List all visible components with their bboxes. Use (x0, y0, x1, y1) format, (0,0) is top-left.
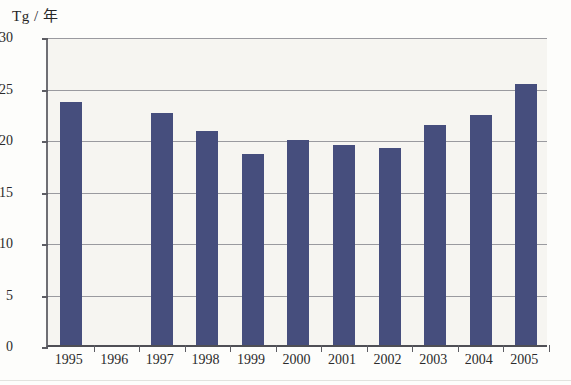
x-tick-label: 2001 (328, 352, 356, 368)
x-tick-label: 2000 (283, 352, 311, 368)
x-tick-mark (321, 345, 322, 352)
bar-slot (321, 38, 367, 345)
bar (379, 148, 401, 345)
bar-slot (412, 38, 458, 345)
bar (515, 84, 537, 345)
x-tick-mark (367, 345, 368, 352)
bar-slot (503, 38, 549, 345)
y-tick-label: 30 (0, 30, 13, 46)
bar-slot (276, 38, 322, 345)
bar (196, 131, 218, 345)
bar (60, 102, 82, 345)
x-tick-label: 2003 (419, 352, 447, 368)
plot-area: 051015202530 (46, 38, 547, 347)
y-tick-label: 25 (0, 82, 13, 98)
y-tick-label: 5 (0, 288, 13, 304)
x-tick-mark (94, 345, 95, 352)
bar (424, 125, 446, 345)
bar-slot (230, 38, 276, 345)
x-tick-mark (503, 345, 504, 352)
x-tick-label: 1998 (191, 352, 219, 368)
x-tick-label: 1996 (100, 352, 128, 368)
x-tick-mark (185, 345, 186, 352)
y-axis-unit-label: Tg / 年 (12, 4, 58, 25)
bar-slot (185, 38, 231, 345)
bar-slot (94, 38, 140, 345)
x-tick-label: 2005 (510, 352, 538, 368)
x-tick-mark (230, 345, 231, 352)
bar-slot (139, 38, 185, 345)
y-tick-label: 10 (0, 236, 13, 252)
x-tick-mark (139, 345, 140, 352)
x-tick-label: 1997 (146, 352, 174, 368)
y-tick-label: 0 (0, 339, 13, 355)
bar-slot (48, 38, 94, 345)
x-tick-label: 1995 (55, 352, 83, 368)
bar (242, 154, 264, 345)
x-tick-mark (412, 345, 413, 352)
scan-artifact-line (0, 380, 571, 381)
x-tick-label: 1999 (237, 352, 265, 368)
x-tick-label: 2002 (374, 352, 402, 368)
y-tick-mark (42, 347, 48, 349)
x-tick-mark (549, 345, 550, 352)
x-tick-mark (276, 345, 277, 352)
bar (287, 140, 309, 345)
bar (470, 115, 492, 345)
bar (333, 145, 355, 345)
y-tick-label: 20 (0, 133, 13, 149)
bar-slot (367, 38, 413, 345)
y-tick-label: 15 (0, 185, 13, 201)
bar-series (48, 38, 547, 345)
x-tick-label: 2004 (465, 352, 493, 368)
bar-slot (458, 38, 504, 345)
chart-page: Tg / 年 051015202530 19951996199719981999… (0, 0, 571, 385)
bar (151, 113, 173, 345)
x-tick-mark (458, 345, 459, 352)
